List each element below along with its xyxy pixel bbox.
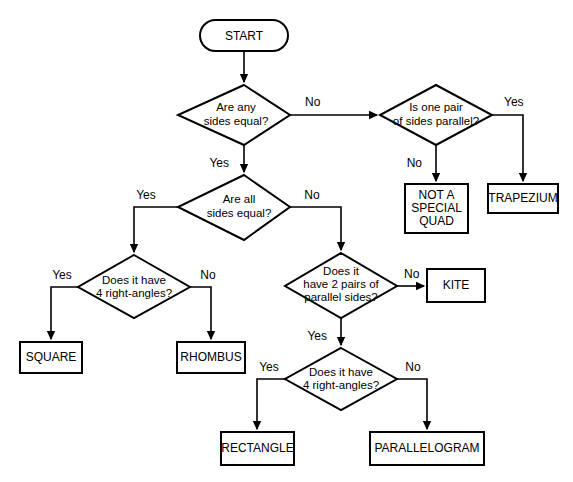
node-start[interactable]: START [200, 20, 288, 51]
edge-label-all-no: No [304, 188, 320, 202]
not-special-quad-line3: QUAD [419, 214, 454, 228]
one-pair-parallel-line1: Is one pair [409, 101, 463, 113]
edge-label-fourleft-no: No [200, 268, 216, 282]
edge-label-twopairs-no: No [404, 267, 420, 281]
trapezium-label: TRAPEZIUM [488, 191, 557, 205]
node-result-kite[interactable]: KITE [427, 269, 485, 302]
start-label: START [225, 29, 264, 43]
edge-fourleft-no [190, 287, 211, 339]
edge-fourleft-yes [51, 287, 78, 339]
flowchart-canvas: No Yes Yes No Yes No Yes No No Yes Yes N… [0, 0, 573, 482]
flowchart-svg: No Yes Yes No Yes No Yes No No Yes Yes N… [0, 0, 573, 482]
any-sides-equal-line2: sides equal? [204, 115, 269, 127]
node-decision-any-sides-equal[interactable]: Are any sides equal? [178, 85, 290, 145]
node-result-not-special-quad[interactable]: NOT A SPECIAL QUAD [405, 184, 468, 233]
edge-all-yes [134, 207, 178, 252]
four-right-angles-left-line1: Does it have [102, 274, 166, 286]
parallelogram-label: PARALLELOGRAM [374, 441, 479, 455]
edge-label-onepair-no: No [407, 156, 423, 170]
kite-label: KITE [443, 278, 470, 292]
edge-onepair-yes [492, 115, 523, 181]
all-sides-equal-line1: Are all [223, 193, 256, 205]
node-decision-four-right-angles-left[interactable]: Does it have 4 right-angles? [78, 255, 190, 318]
edge-all-no [290, 207, 341, 250]
node-decision-one-pair-parallel[interactable]: Is one pair of sides parallel? [380, 85, 492, 145]
two-pairs-parallel-line1: Does it [323, 265, 360, 277]
edge-label-twopairs-yes: Yes [307, 329, 327, 343]
four-right-angles-bottom-line1: Does it have [309, 366, 373, 378]
edge-label-any-no: No [305, 95, 321, 109]
edge-fourbottom-yes [257, 379, 285, 429]
square-label: SQUARE [26, 350, 77, 364]
edge-fourbottom-no [397, 379, 427, 429]
node-result-trapezium[interactable]: TRAPEZIUM [488, 184, 558, 213]
node-result-parallelogram[interactable]: PARALLELOGRAM [370, 432, 484, 465]
edge-label-onepair-yes: Yes [504, 95, 524, 109]
all-sides-equal-line2: sides equal? [207, 207, 272, 219]
edge-label-fourbottom-no: No [405, 360, 421, 374]
rhombus-label: RHOMBUS [180, 350, 241, 364]
edge-label-all-yes: Yes [136, 188, 156, 202]
two-pairs-parallel-line3: parallel sides? [304, 291, 378, 303]
node-result-square[interactable]: SQUARE [20, 342, 82, 373]
node-decision-two-pairs-parallel[interactable]: Does it have 2 pairs of parallel sides? [285, 253, 397, 318]
not-special-quad-line2: SPECIAL [411, 201, 462, 215]
rectangle-label: RECTANGLE [221, 441, 293, 455]
edge-label-any-yes: Yes [209, 156, 229, 170]
node-decision-four-right-angles-bottom[interactable]: Does it have 4 right-angles? [285, 348, 397, 410]
edge-label-fourbottom-yes: Yes [259, 360, 279, 374]
edge-label-fourleft-yes: Yes [52, 268, 72, 282]
two-pairs-parallel-line2: have 2 pairs of [303, 278, 379, 290]
node-decision-all-sides-equal[interactable]: Are all sides equal? [178, 175, 290, 240]
four-right-angles-left-line2: 4 right-angles? [96, 287, 172, 299]
four-right-angles-bottom-line2: 4 right-angles? [303, 379, 379, 391]
not-special-quad-line1: NOT A [419, 188, 455, 202]
node-result-rhombus[interactable]: RHOMBUS [177, 342, 245, 373]
one-pair-parallel-line2: of sides parallel? [393, 115, 479, 127]
node-result-rectangle[interactable]: RECTANGLE [221, 432, 294, 465]
any-sides-equal-line1: Are any [216, 101, 256, 113]
